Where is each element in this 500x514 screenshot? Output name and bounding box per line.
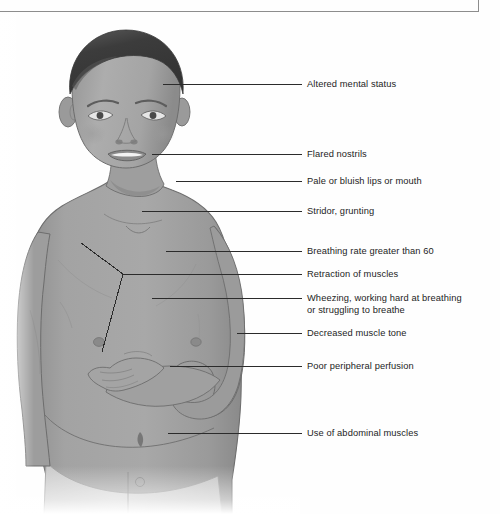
callout-label-altered-mental-status[interactable]: Altered mental status: [307, 78, 396, 90]
callout-label-pale-or-bluish-lips-or-mouth[interactable]: Pale or bluish lips or mouth: [307, 175, 422, 187]
callout-label-use-of-abdominal-muscles[interactable]: Use of abdominal muscles: [307, 427, 418, 439]
callout-label-breathing-rate-greater-than-60[interactable]: Breathing rate greater than 60: [307, 245, 434, 257]
leader-retraction-upper-branch: [81, 243, 123, 274]
callout-label-poor-peripheral-perfusion[interactable]: Poor peripheral perfusion: [307, 360, 414, 372]
callout-label-stridor-grunting[interactable]: Stridor, grunting: [307, 205, 374, 217]
callout-label-flared-nostrils[interactable]: Flared nostrils: [307, 148, 367, 160]
callout-label-wheezing-working-hard-at-breathing[interactable]: Wheezing, working hard at breathing or s…: [307, 292, 462, 317]
callout-label-retraction-of-muscles[interactable]: Retraction of muscles: [307, 268, 398, 280]
callout-label-decreased-muscle-tone[interactable]: Decreased muscle tone: [307, 327, 407, 339]
leader-retraction-lower-branch: [102, 274, 123, 352]
diagram-canvas: Altered mental status Flared nostrils Pa…: [0, 0, 500, 514]
